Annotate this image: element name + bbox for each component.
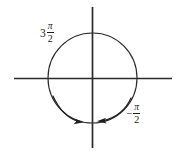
angle-label-negative-pi-over-two: −π2 [126, 103, 140, 126]
fraction-pi-over-two: π2 [47, 22, 54, 45]
angle-label-three-pi-over-two: 3π2 [40, 22, 54, 45]
fraction-denominator: 2 [133, 115, 140, 126]
counterclockwise-arrow-left [53, 96, 84, 124]
label-coefficient: 3 [40, 28, 47, 40]
fraction-numerator: π [47, 22, 54, 32]
label-minus-sign: − [126, 108, 133, 119]
fraction-pi-over-two: π2 [133, 103, 140, 126]
figure-canvas [0, 0, 180, 157]
fraction-denominator: 2 [47, 34, 54, 45]
unit-circle-figure: 3π2 −π2 [0, 0, 180, 157]
fraction-numerator: π [133, 103, 140, 113]
